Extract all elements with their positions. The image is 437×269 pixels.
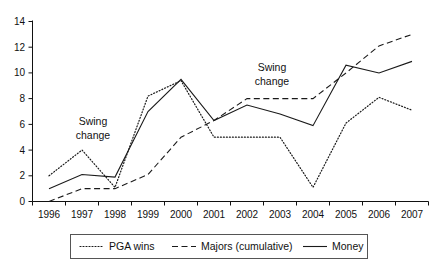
x-tick-label: 1998 [104,209,127,220]
line-chart: 0 2 4 6 8 10 12 14 199619971998199920002… [0,0,437,269]
y-axis-labels: 0 2 4 6 8 10 12 14 [14,16,26,207]
chart-axes [33,21,429,202]
x-tick-label: 1997 [71,209,94,220]
legend-item-pga-wins[interactable]: PGA wins [80,240,155,252]
y-tick-label: 12 [14,42,26,53]
x-axis-labels: 1996199719981999200020012002200320042005… [38,209,424,220]
x-tick-label: 2002 [236,209,259,220]
y-tick-label: 14 [14,16,26,27]
annotation-line-1: Swing [258,61,287,73]
annotation-line-2: change [255,75,290,87]
x-tick-label: 2007 [401,209,424,220]
x-tick-label: 1999 [137,209,160,220]
y-axis-ticks [29,22,33,202]
x-axis-ticks [33,202,429,206]
annotation-line-1: Swing [79,115,108,127]
x-tick-label: 2001 [203,209,226,220]
y-tick-label: 8 [19,93,25,104]
annotation-swing-change-2: Swing change [255,61,290,87]
y-tick-label: 0 [19,196,25,207]
legend-item-majors-cumulative[interactable]: Majors (cumulative) [172,240,293,252]
legend-label: Money [332,240,364,252]
x-tick-label: 2000 [170,209,193,220]
x-tick-label: 1996 [38,209,61,220]
x-tick-label: 2003 [269,209,292,220]
y-tick-label: 2 [19,170,25,181]
chart-container: 0 2 4 6 8 10 12 14 199619971998199920002… [0,0,437,269]
legend-label: Majors (cumulative) [201,240,293,252]
legend-label: PGA wins [109,240,155,252]
x-tick-label: 2006 [368,209,391,220]
chart-legend: PGA wins Majors (cumulative) Money [71,235,368,259]
annotation-swing-change-1: Swing change [76,115,111,141]
y-tick-label: 4 [19,145,25,156]
annotation-line-2: change [76,129,111,141]
legend-item-money[interactable]: Money [303,240,364,252]
y-tick-label: 10 [14,67,26,78]
y-tick-label: 6 [19,119,25,130]
x-tick-label: 2005 [335,209,358,220]
x-tick-label: 2004 [302,209,325,220]
